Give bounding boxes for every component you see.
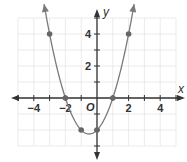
origin-label: O [86, 101, 95, 113]
data-point [47, 31, 53, 37]
curve-left-arrow-icon [42, 4, 49, 12]
x-tick-label: 4 [157, 102, 164, 114]
y-tick-label: 2 [85, 60, 91, 72]
data-point [63, 95, 69, 101]
data-point [94, 127, 100, 133]
data-point [126, 31, 132, 37]
data-point [110, 95, 116, 101]
x-tick-label: −2 [59, 102, 72, 114]
y-axis-up-arrow-icon [94, 9, 100, 17]
x-tick-label: 2 [126, 102, 132, 114]
data-point [78, 127, 84, 133]
parabola-graph: x y O −4−22424 [0, 0, 187, 162]
x-axis-label: x [177, 82, 185, 96]
x-tick-label: −4 [28, 102, 41, 114]
y-tick-label: 4 [85, 28, 92, 40]
y-axis-label: y [102, 5, 110, 19]
curve-right-arrow-icon [129, 4, 136, 12]
y-axis-down-arrow-icon [94, 152, 100, 160]
axes [11, 9, 185, 160]
